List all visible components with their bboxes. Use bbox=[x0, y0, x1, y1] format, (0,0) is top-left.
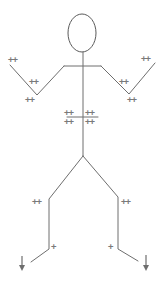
marker-trunk-lower-left: ++ bbox=[64, 117, 73, 126]
stick-figure-diagram: ++ ++ ++ ++ ++ ++ ++ ++ ++ ++ ++ ++ + + bbox=[0, 0, 164, 284]
left-leg bbox=[31, 156, 83, 262]
right-down-arrow-icon bbox=[143, 255, 149, 271]
marker-left-elbow: ++ bbox=[25, 95, 34, 104]
marker-trunk-lower-right: ++ bbox=[85, 117, 94, 126]
stick-figure-svg bbox=[0, 0, 164, 284]
marker-right-knee: ++ bbox=[121, 197, 130, 206]
marker-right-ankle: + bbox=[108, 242, 112, 251]
right-arm bbox=[101, 63, 155, 94]
marker-left-hand: ++ bbox=[8, 55, 17, 64]
marker-right-hand: ++ bbox=[141, 54, 150, 63]
left-down-arrow-icon bbox=[19, 256, 25, 271]
head bbox=[68, 14, 96, 52]
marker-right-forearm: ++ bbox=[119, 77, 128, 86]
marker-left-ankle: + bbox=[51, 242, 55, 251]
marker-left-forearm: ++ bbox=[29, 77, 38, 86]
marker-right-elbow: ++ bbox=[127, 95, 136, 104]
marker-left-knee: ++ bbox=[32, 197, 41, 206]
